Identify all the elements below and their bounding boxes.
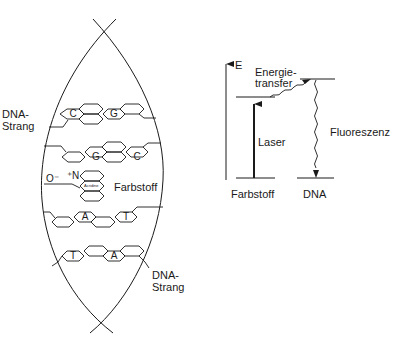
dna-strand-label-top: DNA- Strang <box>2 108 34 132</box>
energy-transfer-label: Energie- transfer <box>255 67 297 89</box>
base-t-row4: T <box>67 251 79 261</box>
laser-label: Laser <box>258 136 286 148</box>
base-t-row3: T <box>120 212 132 222</box>
base-a-row4: A <box>108 251 120 261</box>
energy-axis-label: E <box>235 59 242 71</box>
fluorescence-wave <box>315 80 318 168</box>
base-g-row2: G <box>90 152 102 162</box>
diagram-canvas <box>0 0 401 342</box>
base-pair-row-1 <box>49 104 156 127</box>
dye-label: Farbstoff <box>114 181 157 193</box>
energy-transfer-arrowhead <box>302 79 311 84</box>
oxygen-label: O⁻ <box>46 173 59 185</box>
fluorescence-label: Fluoreszenz <box>330 126 390 138</box>
fluorescence-arrowhead <box>313 170 319 178</box>
base-g-row1: G <box>108 109 120 119</box>
base-pair-row-3 <box>44 207 163 227</box>
dna-strand-outline <box>41 19 163 333</box>
base-c-row1: C <box>67 109 79 119</box>
dna-level-label: DNA <box>303 188 326 200</box>
acridine-label: Acridine <box>84 184 98 188</box>
nitrogen-label: ⁺N <box>67 170 79 182</box>
dna-strand-label-bottom: DNA- Strang <box>152 269 184 293</box>
dye-level-label: Farbstoff <box>231 188 274 200</box>
base-pair-row-2 <box>44 142 161 162</box>
base-c-row2: C <box>131 152 143 162</box>
base-a-row3: A <box>79 212 91 222</box>
